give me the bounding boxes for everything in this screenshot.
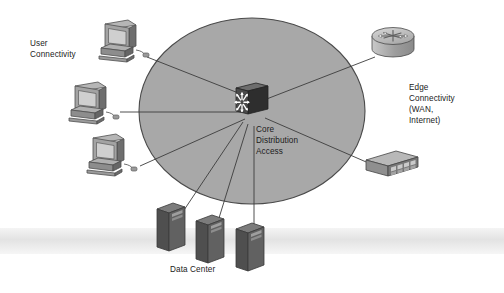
workstation-icon[interactable] xyxy=(99,20,149,62)
data-center-label: Data Center xyxy=(170,264,215,275)
network-diagram: User Connectivity Core Distribution Acce… xyxy=(0,0,504,293)
edge-connectivity-label: Edge Connectivity (WAN, Internet) xyxy=(409,82,455,126)
core-distribution-access-label: Core Distribution Access xyxy=(256,124,298,157)
server-icon[interactable] xyxy=(196,215,224,263)
multilayer-switch-icon[interactable] xyxy=(234,83,268,114)
workstation-icon[interactable] xyxy=(87,134,137,176)
server-icon[interactable] xyxy=(236,223,264,271)
server-icon[interactable] xyxy=(157,203,185,251)
router-icon[interactable] xyxy=(372,28,414,58)
workstation-icon[interactable] xyxy=(69,82,119,124)
user-connectivity-label: User Connectivity xyxy=(30,38,76,60)
workgroup-switch-icon[interactable] xyxy=(366,151,418,176)
